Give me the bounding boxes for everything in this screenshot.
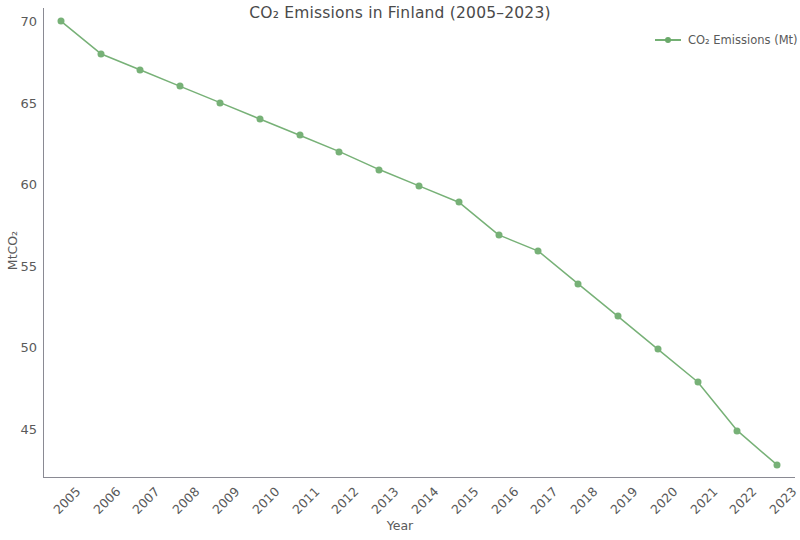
x-axis-tick-label: 2016	[488, 484, 521, 517]
legend-label: CO₂ Emissions (Mt)	[688, 33, 798, 47]
x-axis-tick-label: 2015	[448, 484, 481, 517]
data-point-marker	[376, 166, 383, 173]
x-axis-tick-label: 2023	[766, 484, 799, 517]
data-point-marker	[336, 148, 343, 155]
x-axis-tick-label: 2013	[369, 484, 402, 517]
y-axis-tick-label: 70	[20, 14, 37, 29]
x-axis-tick-label: 2022	[727, 484, 760, 517]
chart-canvas	[43, 8, 795, 478]
series-line-co2-emissions	[61, 21, 777, 465]
y-axis-tick-label: 55	[20, 258, 37, 273]
axis-spines	[43, 8, 795, 478]
data-point-marker	[416, 182, 423, 189]
legend-swatch-icon	[655, 34, 681, 46]
data-point-marker	[217, 99, 224, 106]
data-point-marker	[296, 132, 303, 139]
data-point-marker	[256, 115, 263, 122]
x-axis-tick-label: 2007	[130, 484, 163, 517]
data-point-marker	[774, 461, 781, 468]
data-point-marker	[495, 231, 502, 238]
x-axis-tick-label: 2017	[528, 484, 561, 517]
x-axis-tick-label: 2012	[329, 484, 362, 517]
data-point-marker	[57, 18, 64, 25]
x-axis-tick-label: 2020	[647, 484, 680, 517]
data-point-marker	[137, 67, 144, 74]
data-point-marker	[575, 280, 582, 287]
y-axis-label: MtCO₂	[5, 221, 20, 281]
data-point-marker	[455, 199, 462, 206]
data-point-marker	[97, 50, 104, 57]
chart-legend: CO₂ Emissions (Mt)	[655, 33, 798, 47]
x-axis-tick-label: 2011	[289, 484, 322, 517]
x-axis-tick-label: 2018	[567, 484, 600, 517]
chart-figure: CO₂ Emissions in Finland (2005–2023) 455…	[0, 0, 800, 540]
x-axis-label: Year	[0, 518, 800, 533]
y-axis-tick-label: 50	[20, 340, 37, 355]
plot-area	[43, 8, 795, 478]
axis-ticks	[43, 21, 777, 478]
data-point-marker	[694, 378, 701, 385]
data-point-marker	[177, 83, 184, 90]
y-axis-tick-label: 65	[20, 95, 37, 110]
x-axis-tick-label: 2006	[90, 484, 123, 517]
data-point-marker	[654, 346, 661, 353]
y-axis-tick-label: 60	[20, 177, 37, 192]
x-axis-tick-label: 2019	[607, 484, 640, 517]
data-point-marker	[734, 427, 741, 434]
data-point-marker	[614, 313, 621, 320]
x-axis-tick-label: 2021	[687, 484, 720, 517]
x-axis-tick-label: 2014	[408, 484, 441, 517]
x-axis-tick-label: 2010	[249, 484, 282, 517]
x-axis-tick-label: 2009	[209, 484, 242, 517]
y-axis-tick-label: 45	[20, 422, 37, 437]
data-point-marker	[535, 248, 542, 255]
x-axis-tick-label: 2005	[50, 484, 83, 517]
x-axis-tick-label: 2008	[170, 484, 203, 517]
